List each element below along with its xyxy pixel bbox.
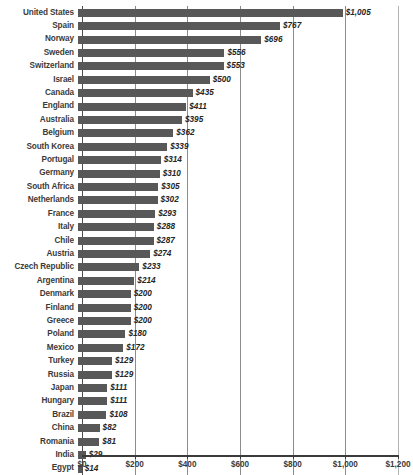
bar[interactable] <box>78 49 224 57</box>
bar-row: Chile$287 <box>0 234 413 247</box>
bar[interactable] <box>78 384 107 392</box>
bar-track: $500 <box>78 73 413 86</box>
bar[interactable] <box>78 357 112 365</box>
bar-value-label: $233 <box>139 263 160 271</box>
bar-row: Switzerland$553 <box>0 60 413 73</box>
category-label-hungary: Hungary <box>0 397 78 405</box>
bar-row: Belgium$362 <box>0 127 413 140</box>
bar-row: Hungary$111 <box>0 395 413 408</box>
bar[interactable] <box>78 397 107 405</box>
bar-track: $696 <box>78 33 413 46</box>
bar-value-label: $200 <box>131 290 152 298</box>
category-label-china: China <box>0 424 78 432</box>
category-label-greece: Greece <box>0 317 78 325</box>
x-axis-line <box>82 455 399 457</box>
bar[interactable] <box>78 330 125 338</box>
bar-value-label: $288 <box>154 223 175 231</box>
bar-value-label: $339 <box>167 143 188 151</box>
bar-value-label: $556 <box>224 49 245 57</box>
bar-track: $395 <box>78 113 413 126</box>
bar[interactable] <box>78 143 167 151</box>
x-tick-label: $400 <box>178 461 196 469</box>
bar-value-label: $310 <box>160 169 181 177</box>
bar[interactable] <box>78 196 158 204</box>
bar-row: Austria$274 <box>0 247 413 260</box>
category-label-south-africa: South Africa <box>0 183 78 191</box>
bar[interactable] <box>78 304 131 312</box>
category-label-japan: Japan <box>0 384 78 392</box>
bar[interactable] <box>78 103 186 111</box>
bar-track: $556 <box>78 46 413 59</box>
bar[interactable] <box>78 290 131 298</box>
category-label-mexico: Mexico <box>0 344 78 352</box>
bar-track: $310 <box>78 167 413 180</box>
category-label-finland: Finland <box>0 304 78 312</box>
bar[interactable] <box>78 129 173 137</box>
bar[interactable] <box>78 317 131 325</box>
bar[interactable] <box>78 277 134 285</box>
bar-value-label: $767 <box>280 22 301 30</box>
bar[interactable] <box>78 183 158 191</box>
bar-value-label: $293 <box>155 210 176 218</box>
bar[interactable] <box>78 62 224 70</box>
bar-row: Norway$696 <box>0 33 413 46</box>
bar-track: $1,005 <box>78 6 413 19</box>
bar[interactable] <box>78 9 343 17</box>
bar[interactable] <box>78 76 210 84</box>
bar-value-label: $500 <box>210 76 231 84</box>
bar-row: Sweden$556 <box>0 46 413 59</box>
category-label-france: France <box>0 210 78 218</box>
bar-row: Canada$435 <box>0 86 413 99</box>
bar[interactable] <box>78 424 100 432</box>
category-label-chile: Chile <box>0 237 78 245</box>
bar-row: South Korea$339 <box>0 140 413 153</box>
category-label-italy: Italy <box>0 223 78 231</box>
bar-track: $172 <box>78 341 413 354</box>
bar-row: South Africa$305 <box>0 180 413 193</box>
bar-value-label: $553 <box>224 62 245 70</box>
bar[interactable] <box>78 116 182 124</box>
bar-row: Japan$111 <box>0 381 413 394</box>
bar-value-label: $305 <box>158 183 179 191</box>
bar-value-label: $274 <box>150 250 171 258</box>
bar-value-label: $129 <box>112 357 133 365</box>
bar-value-label: $108 <box>106 411 127 419</box>
bar-value-label: $111 <box>107 384 127 392</box>
bar-track: $108 <box>78 408 413 421</box>
category-label-norway: Norway <box>0 35 78 43</box>
x-tick-label: $0 <box>77 461 86 469</box>
bar[interactable] <box>78 156 161 164</box>
bar-row: Germany$310 <box>0 167 413 180</box>
bar-track: $314 <box>78 153 413 166</box>
bar-row: Poland$180 <box>0 328 413 341</box>
bar[interactable] <box>78 22 280 30</box>
bar[interactable] <box>78 438 99 446</box>
bar[interactable] <box>78 250 150 258</box>
bar-track: $553 <box>78 60 413 73</box>
x-axis-tick-labels: $0$200$400$600$800$1,000$1,200 <box>0 461 413 475</box>
bar-chart: United States$1,005Spain$767Norway$696Sw… <box>0 0 413 475</box>
bar[interactable] <box>78 36 261 44</box>
bar[interactable] <box>78 170 160 178</box>
bar-track: $82 <box>78 422 413 435</box>
bar-row: Turkey$129 <box>0 355 413 368</box>
bar[interactable] <box>78 210 155 218</box>
bar-track: $288 <box>78 221 413 234</box>
bar-value-label: $411 <box>186 102 207 110</box>
bar[interactable] <box>78 89 193 97</box>
bar[interactable] <box>78 411 106 419</box>
bar-row: Brazil$108 <box>0 408 413 421</box>
bar[interactable] <box>78 344 123 352</box>
bar[interactable] <box>78 223 154 231</box>
bar[interactable] <box>78 371 112 379</box>
bar-value-label: $180 <box>125 330 146 338</box>
category-label-turkey: Turkey <box>0 357 78 365</box>
bar[interactable] <box>78 263 139 271</box>
category-label-switzerland: Switzerland <box>0 62 78 70</box>
bar[interactable] <box>78 237 154 245</box>
bar-value-label: $696 <box>261 35 282 43</box>
bar-track: $81 <box>78 435 413 448</box>
bar-track: $200 <box>78 301 413 314</box>
category-label-netherlands: Netherlands <box>0 196 78 204</box>
bar-row: Netherlands$302 <box>0 194 413 207</box>
